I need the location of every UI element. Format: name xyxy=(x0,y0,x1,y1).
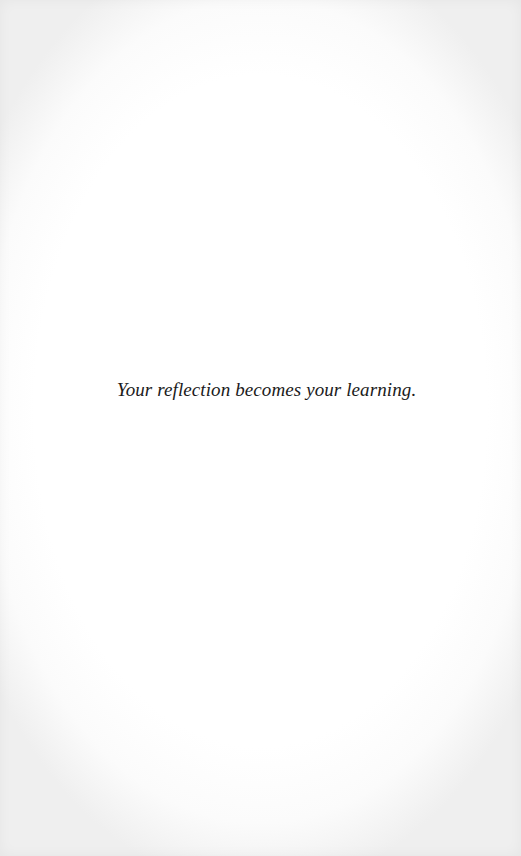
splash-quote: Your reflection becomes your learning. xyxy=(0,378,521,402)
splash-screen: Your reflection becomes your learning. xyxy=(0,0,521,856)
